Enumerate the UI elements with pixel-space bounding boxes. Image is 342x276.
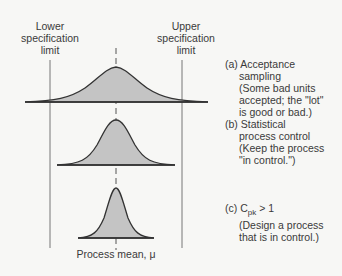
upper-spec-label: Upper specification limit [150,20,222,56]
curve-b [57,120,175,165]
note-a: (a) Acceptance sampling (Some bad units … [225,58,324,118]
process-mean-label: Process mean, μ [66,248,166,260]
lower-spec-label: Lower specification limit [14,20,86,56]
curve-c [78,188,154,238]
note-b: (b) Statistical process control (Keep th… [225,118,324,166]
curve-a [25,67,208,102]
note-c: (c) Cpk > 1 (Design a process that is in… [225,202,324,243]
